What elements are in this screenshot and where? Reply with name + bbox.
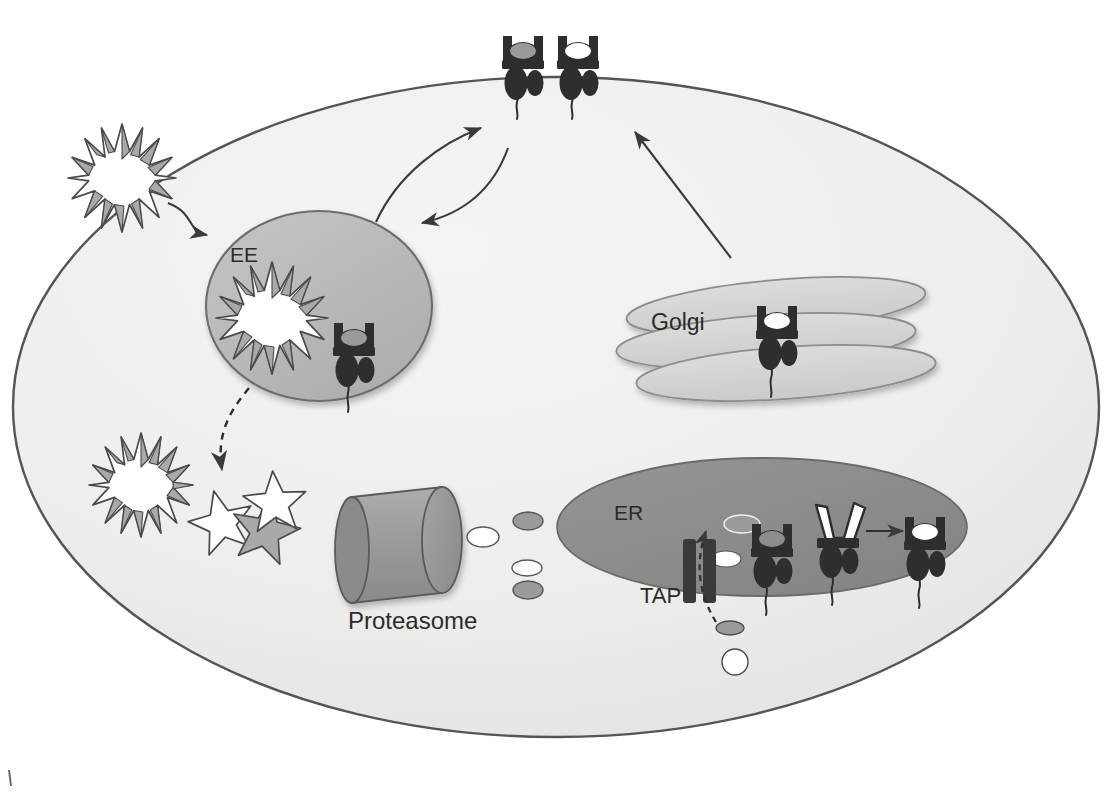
proteasome [335, 487, 462, 603]
figure-canvas: EE Golgi [0, 0, 1111, 792]
peptide-cytosol-1 [513, 512, 543, 530]
early-endosome-label: EE [230, 243, 258, 266]
peptide-cytosol-2 [512, 560, 542, 576]
peptide-tap-entry [716, 621, 744, 635]
endoplasmic-reticulum-label: ER [614, 501, 643, 524]
peptide-below-cell [722, 649, 748, 675]
caption-tick-mark [9, 770, 11, 786]
plasma-membrane-cell-body [13, 77, 1099, 737]
proteasome-label: Proteasome [348, 607, 477, 634]
tap-label: TAP [640, 583, 681, 608]
peptide-cytosol-3 [513, 581, 543, 599]
peptide-proteasome-exit [467, 527, 499, 547]
golgi-label: Golgi [651, 309, 705, 335]
